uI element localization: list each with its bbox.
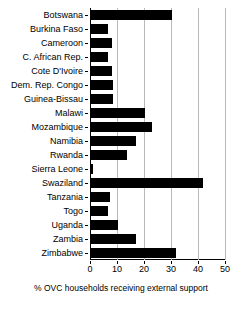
x-tick-label: 50	[220, 264, 230, 275]
y-tick-mark	[85, 183, 88, 184]
category-label: Dem. Rep. Congo	[11, 78, 83, 92]
category-label: Zimbabwe	[41, 246, 83, 260]
bar	[91, 150, 127, 160]
bar	[91, 178, 203, 188]
category-label: Mozambique	[31, 120, 83, 134]
bar-row	[90, 204, 225, 218]
category-label: Sierra Leone	[31, 162, 83, 176]
x-tick-label: 40	[193, 264, 203, 275]
category-label: Cote D'Ivoire	[31, 64, 83, 78]
y-tick-mark	[85, 127, 88, 128]
y-tick-mark	[85, 239, 88, 240]
category-axis: BotswanaBurkina FasoCameroonC. African R…	[0, 8, 88, 260]
x-tick-label: 0	[87, 264, 92, 275]
y-tick-mark	[85, 253, 88, 254]
bar	[91, 94, 113, 104]
bar	[91, 24, 108, 34]
bar	[91, 108, 145, 118]
bar-row	[90, 190, 225, 204]
bar-row	[90, 162, 225, 176]
x-axis-ticks: 01020304050	[90, 261, 225, 275]
gridline-50	[225, 8, 226, 260]
bar-row	[90, 106, 225, 120]
y-tick-mark	[85, 155, 88, 156]
x-tick-label: 30	[166, 264, 176, 275]
y-tick-mark	[85, 43, 88, 44]
bar	[91, 220, 118, 230]
category-label: Malawi	[55, 106, 83, 120]
bar	[91, 80, 113, 90]
bar	[91, 192, 110, 202]
bar	[91, 122, 152, 132]
y-tick-mark	[85, 99, 88, 100]
bar	[91, 136, 136, 146]
bar-row	[90, 22, 225, 36]
bar	[91, 234, 136, 244]
bar	[91, 248, 176, 258]
x-tick-label: 10	[112, 264, 122, 275]
bar-row	[90, 176, 225, 190]
bar	[91, 66, 112, 76]
y-tick-mark	[85, 211, 88, 212]
category-label: Namibia	[50, 134, 83, 148]
y-tick-mark	[85, 113, 88, 114]
bar-row	[90, 134, 225, 148]
y-tick-mark	[85, 15, 88, 16]
category-label: Burkina Faso	[30, 22, 83, 36]
x-axis-title: % OVC households receiving external supp…	[0, 283, 242, 294]
category-label: Togo	[63, 204, 83, 218]
y-tick-mark	[85, 225, 88, 226]
category-label: Botswana	[43, 8, 83, 22]
bar-row	[90, 50, 225, 64]
bar	[91, 52, 108, 62]
y-tick-mark	[85, 71, 88, 72]
category-label: Uganda	[51, 218, 83, 232]
bar-row	[90, 8, 225, 22]
bar-row	[90, 64, 225, 78]
bar-chart: BotswanaBurkina FasoCameroonC. African R…	[0, 0, 242, 311]
category-label: Swaziland	[42, 176, 83, 190]
bar-rows	[90, 8, 225, 260]
bar-row	[90, 36, 225, 50]
bar-row	[90, 78, 225, 92]
category-label: Guinea-Bissau	[24, 92, 83, 106]
bar-row	[90, 148, 225, 162]
bar	[91, 164, 93, 174]
y-tick-mark	[85, 57, 88, 58]
y-tick-mark	[85, 197, 88, 198]
category-label: Cameroon	[41, 36, 83, 50]
bar	[91, 38, 112, 48]
bar-row	[90, 120, 225, 134]
y-tick-mark	[85, 85, 88, 86]
y-tick-mark	[85, 141, 88, 142]
bar-row	[90, 218, 225, 232]
category-label: Rwanda	[50, 148, 83, 162]
category-label: Tanzania	[47, 190, 83, 204]
x-tick-label: 20	[139, 264, 149, 275]
plot-area	[90, 8, 225, 260]
y-tick-mark	[85, 29, 88, 30]
bar-row	[90, 246, 225, 260]
category-label: Zambia	[53, 232, 83, 246]
bar	[91, 206, 108, 216]
bar	[91, 10, 172, 20]
bar-row	[90, 92, 225, 106]
bar-row	[90, 232, 225, 246]
y-tick-mark	[85, 169, 88, 170]
category-label: C. African Rep.	[22, 50, 83, 64]
